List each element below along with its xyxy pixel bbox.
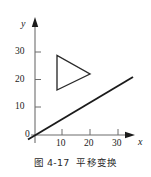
y-axis-label: y [21,19,25,29]
x-axis-label: x [138,137,142,147]
y-tick-label-20: 20 [15,75,25,85]
x-axis-arrow-icon [125,132,135,138]
y-tick-label-30: 30 [15,47,25,57]
figure-caption-title: 平移变换 [76,157,117,168]
x-tick-label-30: 30 [112,139,122,149]
series-triangle [57,56,90,91]
series-diagonal-line [28,77,133,140]
y-tick-label-0: 0 [25,130,30,140]
figure-container: y x 30 20 10 0 10 20 30 图 4-17平移变换 [0,0,151,177]
figure-caption-label: 图 4-17 [34,157,70,168]
y-axis-arrow-icon [32,17,38,27]
x-tick-label-20: 20 [84,139,94,149]
y-tick-label-10: 10 [15,102,25,112]
x-tick-label-10: 10 [56,139,66,149]
figure-caption: 图 4-17平移变换 [0,155,151,169]
